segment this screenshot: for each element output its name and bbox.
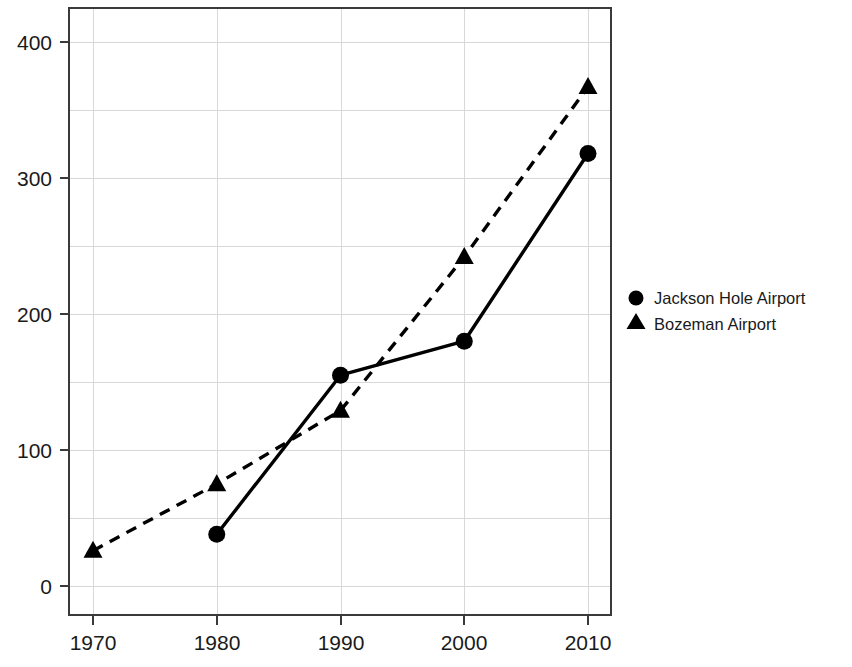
filled-circle-marker-icon (629, 291, 644, 306)
x-axis-label-2010: 2010 (565, 631, 612, 654)
x-axis-label-1970: 1970 (70, 631, 117, 654)
data-point-circle (332, 367, 349, 384)
y-axis-label-100: 100 (17, 439, 52, 462)
data-point-circle (580, 145, 597, 162)
chart-legend: Jackson Hole Airport Bozeman Airport (627, 289, 806, 333)
x-axis-ticks (93, 615, 588, 625)
x-axis-label-1980: 1980 (194, 631, 241, 654)
legend-label-bozeman: Bozeman Airport (654, 315, 776, 333)
line-chart-svg: 0 100 200 300 400 1970 1980 1990 2000 20… (0, 0, 852, 667)
chart-figure: 0 100 200 300 400 1970 1980 1990 2000 20… (0, 0, 852, 667)
plot-background (69, 8, 611, 615)
x-axis-tick-labels: 1970 1980 1990 2000 2010 (70, 631, 612, 654)
y-axis-label-300: 300 (17, 167, 52, 190)
x-axis-label-1990: 1990 (318, 631, 365, 654)
y-axis-label-200: 200 (17, 303, 52, 326)
data-point-circle (208, 526, 225, 543)
legend-entry-bozeman[interactable]: Bozeman Airport (627, 313, 777, 333)
data-point-circle (456, 333, 473, 350)
x-axis-label-2000: 2000 (441, 631, 488, 654)
y-axis-label-400: 400 (17, 31, 52, 54)
y-axis-tick-labels: 0 100 200 300 400 (17, 31, 52, 598)
filled-triangle-marker-icon (627, 313, 646, 329)
legend-entry-jackson-hole[interactable]: Jackson Hole Airport (629, 289, 806, 307)
y-axis-ticks (60, 42, 69, 586)
legend-label-jackson-hole: Jackson Hole Airport (654, 289, 806, 307)
y-axis-label-0: 0 (40, 575, 52, 598)
